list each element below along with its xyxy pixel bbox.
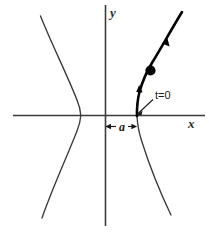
- t-zero-label: t=0: [155, 89, 171, 101]
- figure-container: t=0 a y x: [0, 0, 209, 239]
- t-zero-leader-line: [138, 100, 154, 115]
- particle-dot-marker: [145, 65, 155, 75]
- left-branch-curve: [41, 16, 81, 218]
- trajectory-diagram: t=0 a y x: [0, 0, 209, 239]
- x-axis-label: x: [187, 116, 195, 131]
- dimension-a-label: a: [119, 120, 125, 134]
- dimension-a-right-arrowhead-icon: [131, 124, 137, 130]
- right-branch-lower-curve: [137, 116, 171, 216]
- y-axis-label: y: [108, 5, 116, 20]
